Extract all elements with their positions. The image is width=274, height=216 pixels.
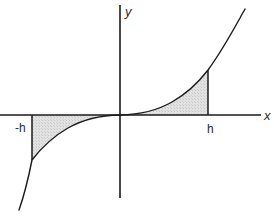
y-axis-label: y (125, 5, 132, 18)
left-shaded-area (32, 115, 120, 160)
left-bound-tick-label: -h (15, 122, 26, 134)
function-curve (19, 9, 245, 210)
right-shaded-area (120, 70, 208, 115)
odd-function-figure: y x -h h (0, 0, 274, 216)
x-axis-label: x (264, 109, 271, 122)
right-bound-tick-label: h (207, 123, 214, 135)
figure-canvas (0, 0, 274, 216)
